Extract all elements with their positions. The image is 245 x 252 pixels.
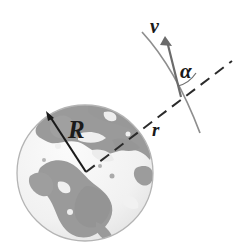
speckle-3 xyxy=(42,158,46,162)
label-orbit-radius: r xyxy=(152,120,159,139)
velocity-arrow xyxy=(160,36,181,97)
label-earth-radius: R xyxy=(68,117,85,142)
speckle-6 xyxy=(98,164,102,168)
physics-diagram-figure: R r v α xyxy=(0,0,245,252)
speckle-4 xyxy=(110,174,115,179)
speckle-2 xyxy=(126,132,131,137)
speckle-1 xyxy=(55,143,61,149)
diagram-canvas xyxy=(0,0,245,252)
velocity-arrow-head xyxy=(160,36,172,46)
label-angle-alpha: α xyxy=(180,61,192,82)
label-velocity: v xyxy=(150,16,159,36)
earth-globe xyxy=(17,103,153,242)
speckle-5 xyxy=(67,209,73,215)
